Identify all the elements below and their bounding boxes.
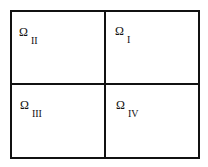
omega-symbol: Ω [19, 26, 28, 38]
omega-symbol: Ω [116, 99, 125, 111]
region-label-top-right: ΩI [115, 22, 130, 38]
omega-symbol: Ω [115, 25, 124, 37]
region-subscript: IV [128, 109, 139, 119]
region-subscript: III [32, 109, 42, 119]
region-label-bottom-right: ΩIV [116, 96, 138, 112]
omega-symbol: Ω [20, 99, 29, 111]
horizontal-divider [11, 83, 198, 85]
region-subscript: II [31, 36, 38, 46]
region-subscript: I [127, 35, 130, 45]
region-label-top-left: ΩII [19, 23, 38, 39]
region-label-bottom-left: ΩIII [20, 96, 42, 112]
